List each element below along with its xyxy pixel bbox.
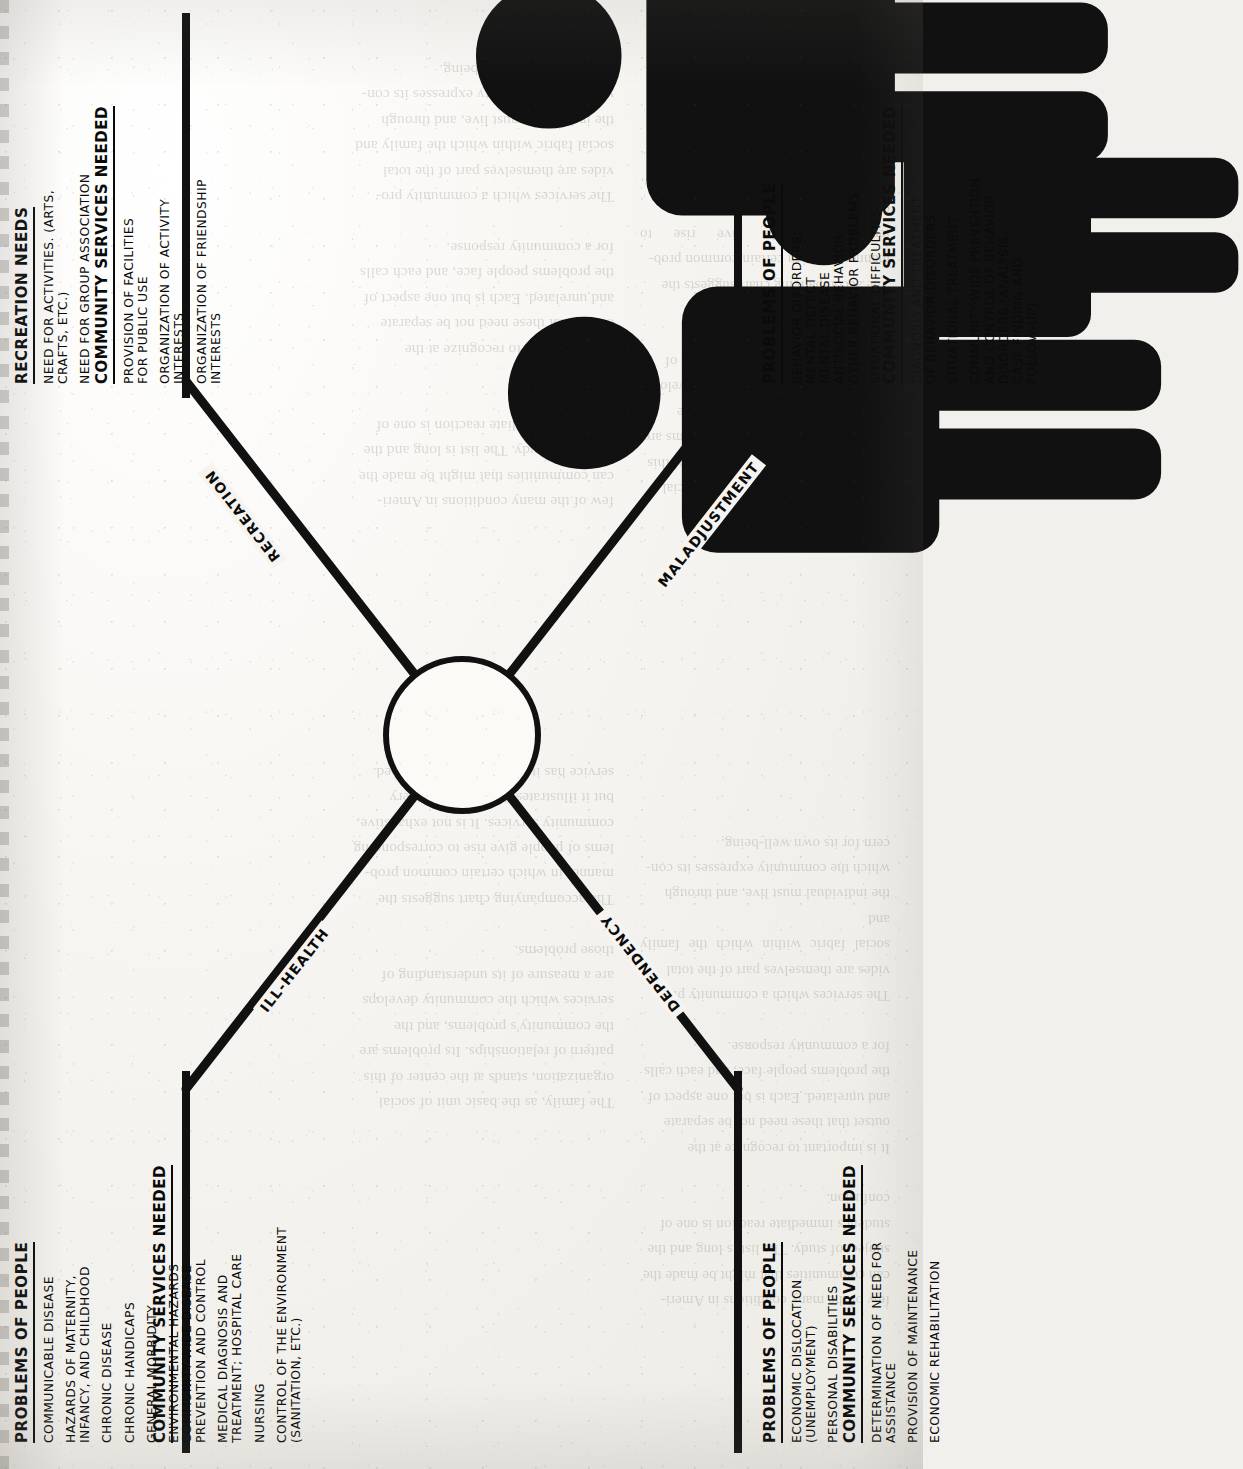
quadrant-recreation-services-heading: COMMUNITY SERVICES NEEDED [95, 106, 115, 384]
quadrant-ill-health-services-list: COMMUNITY-WIDE DISEASE PREVENTION AND CO… [180, 1023, 303, 1443]
quadrant-maladjustment-services-list: DIAGNOSIS AND TREATMENT OF BEHAVIOR DISO… [910, 0, 1040, 384]
list-item: BEHAVIOR DISORDERS: [790, 24, 804, 384]
list-item: ORGANIZATION OF FRIENDSHIP INTERESTS [195, 14, 223, 384]
list-item: SITUATIONAL TREATMENT [946, 0, 960, 384]
list-item: CHRONIC DISEASE [100, 1113, 114, 1443]
list-item: CHRONIC HANDICAPS [123, 1113, 137, 1443]
quadrant-dependency-problems: PROBLEMS OF PEOPLE ECONOMIC DISLOCATION … [760, 1113, 848, 1443]
quadrant-ill-health-services: COMMUNITY SERVICES NEEDED COMMUNITY-WIDE… [150, 1023, 311, 1443]
list-item: PERSONAL DISABILITIES [826, 1113, 840, 1443]
quadrant-dependency-problems-heading: PROBLEMS OF PEOPLE [763, 1242, 783, 1443]
list-item: DETERMINATION OF NEED FOR ASSISTANCE [870, 1043, 898, 1443]
list-item: NURSING [253, 1023, 267, 1443]
list-item: MENTAL DEFECT [804, 24, 818, 384]
quadrant-recreation-services-list: PROVISION OF FACILITIES FOR PUBLIC USE O… [122, 14, 223, 384]
family-hub-circle [383, 656, 541, 814]
list-item: PROVISION OF MAINTENANCE [906, 1043, 920, 1443]
list-item: ANTISOCIAL BEHAVIOR [832, 24, 846, 384]
quadrant-dependency-services-list: DETERMINATION OF NEED FOR ASSISTANCE PRO… [870, 1043, 943, 1443]
quadrant-maladjustment-services-heading: COMMUNITY SERVICES NEEDED [883, 106, 903, 384]
quadrant-recreation-needs-list: NEED FOR ACTIVITIES. (ARTS, CRAFTS, ETC.… [42, 54, 93, 384]
list-item: DIAGNOSIS AND TREATMENT OF BEHAVIOR DISO… [910, 0, 938, 384]
quadrant-recreation-needs: RECREATION NEEDS NEED FOR ACTIVITIES. (A… [12, 54, 100, 384]
quadrant-maladjustment-problems-list: BEHAVIOR DISORDERS: MENTAL DEFECT MENTAL… [790, 24, 883, 384]
list-item: OTHER BEHAVIOR PROBLEMS [847, 24, 861, 384]
list-item: COMMUNITY-WIDE PREVENTION AND CONTROL OF… [968, 0, 1039, 384]
quadrant-recreation-services: COMMUNITY SERVICES NEEDED PROVISION OF F… [92, 14, 231, 384]
quadrant-dependency-services-heading: COMMUNITY SERVICES NEEDED [843, 1165, 863, 1443]
list-item: COMMUNITY-WIDE DISEASE PREVENTION AND CO… [180, 1023, 208, 1443]
list-item: ECONOMIC REHABILITATION [928, 1043, 942, 1443]
list-item: MEDICAL DIAGNOSIS AND TREATMENT; HOSPITA… [216, 1023, 244, 1443]
list-item: NEED FOR GROUP ASSOCIATION [78, 54, 92, 384]
quadrant-maladjustment-problems: PROBLEMS OF PEOPLE BEHAVIOR DISORDERS: M… [760, 24, 891, 384]
list-item: MENTAL DISEASE [818, 24, 832, 384]
family-group-silhouette-icon [389, 662, 535, 808]
quadrant-recreation-needs-heading: RECREATION NEEDS [15, 207, 35, 384]
list-item: PROVISION OF FACILITIES FOR PUBLIC USE [122, 14, 150, 384]
list-item: COMMUNICABLE DISEASE [42, 1113, 56, 1443]
list-item: ORGANIZATION OF ACTIVITY INTERESTS [158, 14, 186, 384]
quadrant-dependency-problems-list: ECONOMIC DISLOCATION (UNEMPLOYMENT) PERS… [790, 1113, 841, 1443]
quadrant-ill-health-services-heading: COMMUNITY SERVICES NEEDED [153, 1165, 173, 1443]
list-item: NEED FOR ACTIVITIES. (ARTS, CRAFTS, ETC.… [42, 54, 70, 384]
quadrant-dependency-services: COMMUNITY SERVICES NEEDED DETERMINATION … [840, 1043, 951, 1443]
quadrant-maladjustment-problems-heading: PROBLEMS OF PEOPLE [763, 183, 783, 384]
quadrant-ill-health-problems-heading: PROBLEMS OF PEOPLE [15, 1242, 35, 1443]
list-item: ECONOMIC DISLOCATION (UNEMPLOYMENT) [790, 1113, 818, 1443]
list-item: HAZARDS OF MATERNITY, INFANCY, AND CHILD… [64, 1113, 92, 1443]
list-item: CONTROL OF THE ENVIRONMENT (SANITATION, … [275, 1023, 303, 1443]
quadrant-maladjustment-services: COMMUNITY SERVICES NEEDED DIAGNOSIS AND … [880, 0, 1047, 384]
